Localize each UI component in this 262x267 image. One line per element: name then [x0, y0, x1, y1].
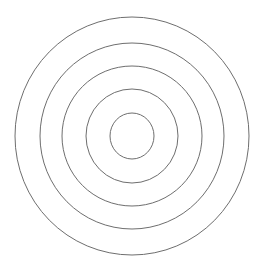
figure-canvas	[0, 0, 262, 267]
concentric-circles-figure	[0, 0, 262, 267]
figure-background	[0, 0, 262, 267]
